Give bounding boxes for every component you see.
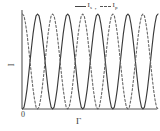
origin-tick-label: 0 bbox=[21, 110, 25, 119]
y-axis-label: I bbox=[0, 58, 22, 72]
x-axis-label: Γ bbox=[76, 116, 81, 126]
series-line-is bbox=[23, 14, 159, 109]
intensity-vs-retardance-chart: Is , Ip I 0 Γ bbox=[0, 0, 160, 131]
